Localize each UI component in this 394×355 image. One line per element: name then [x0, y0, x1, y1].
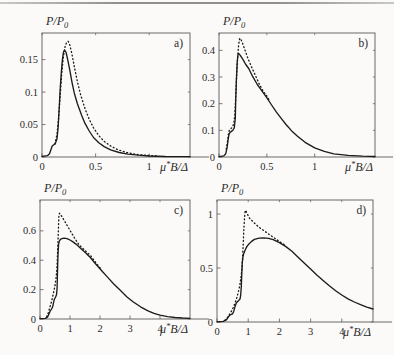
panel-d-frame — [217, 200, 373, 322]
panel-b-x-tick-label: 0.5 — [260, 161, 273, 172]
panel-b-frame — [219, 33, 375, 157]
panel-a-solid-curve — [42, 50, 190, 157]
panel-a-y-tick-label: 0.05 — [20, 119, 38, 130]
panel-b-y-tick-label: 0.2 — [202, 98, 215, 109]
panel-b-y-tick-label: 0.4 — [202, 45, 216, 56]
panel-b-solid-curve — [219, 54, 375, 157]
panel-c-y-tick-label: 0 — [31, 314, 36, 325]
panel-c-label: c) — [174, 204, 183, 217]
panel-c-x-tick-label: 0 — [37, 323, 42, 334]
panel-a-x-tick-label: 0 — [39, 161, 44, 172]
panel-c-x-axis-title: μ*B/Δ — [159, 321, 188, 336]
panel-a-x-tick-label: 0.5 — [89, 161, 102, 172]
panel-a-x-axis-title: μ*B/Δ — [159, 159, 188, 174]
panel-b-y-axis-title: P/P0 — [222, 14, 246, 30]
panel-c-x-tick-label: 2 — [97, 323, 102, 334]
panel-c-y-axis-title: P/P0 — [43, 181, 67, 197]
panel-d-y-axis-title: P/P0 — [220, 181, 244, 197]
panel-a-y-axis-title: P/P0 — [45, 14, 69, 30]
panel-d-y-tick-label: 1 — [208, 209, 213, 220]
panel-c-y-tick-label: 0.4 — [23, 255, 37, 266]
panel-c-dotted-curve — [47, 213, 102, 317]
scanned-figure-page: 00.5100.050.10.15P/P0μ*B/Δa)00.5100.10.2… — [0, 0, 394, 355]
panel-d-x-tick-label: 3 — [308, 326, 313, 337]
panel-c-frame — [40, 200, 190, 319]
panel-a-y-tick-label: 0 — [33, 152, 38, 163]
pressure-vs-field-figure: 00.5100.050.10.15P/P0μ*B/Δa)00.5100.10.2… — [0, 0, 394, 355]
panel-a-y-tick-label: 0.15 — [20, 54, 38, 65]
panel-c-x-tick-label: 1 — [67, 323, 72, 334]
panel-b-y-tick-label: 0.3 — [202, 72, 215, 83]
panel-a-dotted-curve — [55, 41, 158, 156]
panel-d-x-tick-label: 1 — [246, 326, 251, 337]
panel-c-y-tick-label: 0.6 — [23, 225, 36, 236]
panel-d-y-tick-label: 0 — [208, 317, 213, 328]
panel-d-label: d) — [356, 204, 366, 217]
panel-d-y-tick-label: 0.5 — [200, 263, 213, 274]
panel-b: 00.5100.10.20.30.4P/P0μ*B/Δb) — [202, 14, 393, 174]
panel-c-y-tick-label: 0.2 — [23, 284, 36, 295]
panel-d-x-tick-label: 2 — [277, 326, 282, 337]
panel-b-x-tick-label: 0 — [216, 161, 221, 172]
panel-a-label: a) — [174, 37, 183, 50]
panel-a-x-tick-label: 1 — [147, 161, 152, 172]
panel-c-solid-curve — [40, 238, 190, 319]
panel-d: 0123400.51P/P0μ*B/Δd) — [200, 181, 392, 339]
panel-c: 0123400.20.40.6P/P0μ*B/Δc) — [23, 181, 209, 336]
panel-b-x-axis-title: μ*B/Δ — [344, 159, 373, 174]
panel-b-y-tick-label: 0 — [210, 152, 215, 163]
panel-a: 00.5100.050.10.15P/P0μ*B/Δa) — [20, 14, 209, 174]
panel-d-x-tick-label: 0 — [214, 326, 219, 337]
panel-d-x-axis-title: μ*B/Δ — [342, 324, 371, 339]
panel-d-dotted-curve — [225, 210, 284, 320]
panel-b-label: b) — [358, 37, 368, 50]
panel-c-x-tick-label: 3 — [127, 323, 132, 334]
panel-b-y-tick-label: 0.1 — [202, 125, 215, 136]
panel-b-x-tick-label: 1 — [312, 161, 317, 172]
panel-a-y-tick-label: 0.1 — [25, 87, 38, 98]
